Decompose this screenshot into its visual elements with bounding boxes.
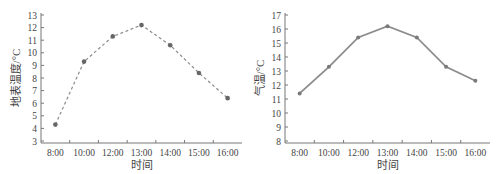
data-point-marker bbox=[168, 43, 173, 48]
data-point-marker bbox=[53, 122, 58, 127]
data-point-marker bbox=[110, 34, 115, 39]
y-tick-label: 9 bbox=[276, 123, 281, 133]
y-tick-label: 13 bbox=[28, 11, 38, 21]
y-tick-label: 14 bbox=[272, 53, 282, 63]
x-tick-label: 14:00 bbox=[159, 148, 181, 158]
x-tick-label: 10:00 bbox=[318, 148, 340, 158]
y-tick-label: 8 bbox=[32, 74, 37, 84]
data-point-marker bbox=[386, 24, 390, 28]
y-tick-label: 7 bbox=[32, 86, 37, 96]
y-axis-title: 地表温度/°C bbox=[9, 49, 22, 108]
charts-canvas: 3456789101112138:0010:0012:0013:0014:001… bbox=[0, 0, 503, 174]
data-point-marker bbox=[197, 71, 202, 76]
data-point-marker bbox=[298, 91, 302, 95]
y-tick-label: 11 bbox=[28, 36, 37, 46]
y-tick-label: 9 bbox=[32, 61, 37, 71]
y-tick-label: 11 bbox=[272, 95, 281, 105]
ground-temperature-chart: 3456789101112138:0010:0012:0013:0014:001… bbox=[9, 11, 242, 172]
data-point-marker bbox=[139, 23, 144, 28]
x-tick-label: 8:00 bbox=[291, 148, 308, 158]
series-line bbox=[300, 26, 476, 93]
y-tick-label: 5 bbox=[32, 111, 37, 121]
y-tick-label: 10 bbox=[272, 109, 282, 119]
y-axis-title: 气温/°C bbox=[253, 60, 266, 97]
y-tick-label: 12 bbox=[272, 81, 282, 91]
x-tick-label: 13:00 bbox=[131, 148, 153, 158]
data-point-marker bbox=[473, 79, 477, 83]
y-tick-label: 15 bbox=[272, 39, 282, 49]
y-tick-label: 10 bbox=[28, 48, 38, 58]
series-line bbox=[55, 25, 227, 125]
y-tick-label: 3 bbox=[32, 137, 37, 147]
x-tick-label: 14:00 bbox=[406, 148, 428, 158]
data-point-marker bbox=[356, 35, 360, 39]
data-point-marker bbox=[225, 96, 230, 101]
x-tick-label: 8:00 bbox=[47, 148, 64, 158]
x-tick-label: 15:00 bbox=[188, 148, 210, 158]
y-tick-label: 4 bbox=[32, 124, 37, 134]
y-tick-label: 8 bbox=[276, 137, 281, 147]
x-tick-label: 10:00 bbox=[73, 148, 95, 158]
data-point-marker bbox=[444, 65, 448, 69]
x-tick-label: 13:00 bbox=[377, 148, 399, 158]
data-point-marker bbox=[415, 35, 419, 39]
air-temperature-chart: 8910111213141516178:0010:0012:0013:0014:… bbox=[253, 11, 490, 172]
x-tick-label: 12:00 bbox=[102, 148, 124, 158]
x-tick-label: 16:00 bbox=[465, 148, 487, 158]
x-tick-label: 15:00 bbox=[435, 148, 457, 158]
x-tick-label: 16:00 bbox=[217, 148, 239, 158]
data-point-marker bbox=[327, 65, 331, 69]
x-axis-title: 时间 bbox=[377, 159, 399, 171]
x-axis-title: 时间 bbox=[131, 159, 153, 171]
y-tick-label: 16 bbox=[272, 25, 282, 35]
y-tick-label: 12 bbox=[28, 23, 38, 33]
x-tick-label: 12:00 bbox=[347, 148, 369, 158]
y-tick-label: 6 bbox=[32, 99, 37, 109]
y-tick-label: 17 bbox=[272, 11, 282, 21]
data-point-marker bbox=[82, 59, 87, 64]
y-tick-label: 13 bbox=[272, 67, 282, 77]
